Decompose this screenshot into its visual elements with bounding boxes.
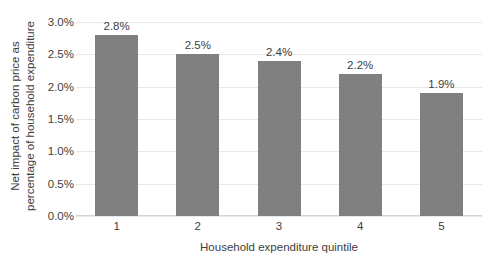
bar [258, 61, 301, 216]
y-axis-tick-label: 1.0% [48, 145, 74, 157]
y-axis-title-line-1: Net impact of carbon price as [8, 21, 23, 211]
y-axis-tick-label: 3.0% [48, 16, 74, 28]
bar-data-label: 2.5% [185, 39, 211, 51]
x-axis-tick-labels: 12345 [76, 220, 482, 238]
x-axis-tick-label: 2 [157, 220, 238, 238]
bar-slot: 2.8% [76, 22, 157, 216]
bar-slot: 2.5% [157, 22, 238, 216]
bar-slot: 1.9% [401, 22, 482, 216]
y-axis-tick-label: 1.5% [48, 113, 74, 125]
bar-slot: 2.2% [320, 22, 401, 216]
y-axis-title-line-2: percentage of household expenditure [23, 21, 38, 211]
plot-area: 2.8%2.5%2.4%2.2%1.9% [76, 22, 482, 216]
bar-data-label: 1.9% [428, 78, 454, 90]
bars-container: 2.8%2.5%2.4%2.2%1.9% [76, 22, 482, 216]
gridline [76, 216, 482, 217]
y-axis-tick-label: 2.5% [48, 48, 74, 60]
x-axis-tick-label: 4 [320, 220, 401, 238]
x-axis-tick-label: 3 [238, 220, 319, 238]
y-axis-tick-label: 0.0% [48, 210, 74, 222]
bar [339, 74, 382, 216]
bar-slot: 2.4% [238, 22, 319, 216]
bar-chart: Net impact of carbon price as percentage… [0, 0, 502, 271]
x-axis-tick-label: 5 [401, 220, 482, 238]
x-axis-title: Household expenditure quintile [76, 241, 482, 253]
y-axis-tick-label: 0.5% [48, 178, 74, 190]
bar [95, 35, 138, 216]
bar-data-label: 2.8% [103, 20, 129, 32]
bar-data-label: 2.4% [266, 46, 292, 58]
x-axis-tick-label: 1 [76, 220, 157, 238]
bar-data-label: 2.2% [347, 59, 373, 71]
y-axis-tick-labels: 3.0%2.5%2.0%1.5%1.0%0.5%0.0% [38, 0, 74, 232]
y-axis-tick-label: 2.0% [48, 81, 74, 93]
bar [420, 93, 463, 216]
bar [176, 54, 219, 216]
